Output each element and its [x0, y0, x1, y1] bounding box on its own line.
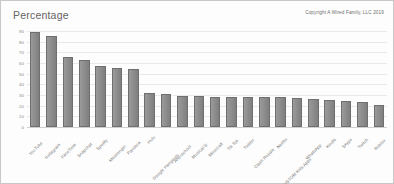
plot-area — [27, 31, 387, 127]
page-title: Percentage — [13, 9, 69, 21]
bar-slot — [30, 31, 40, 127]
bar[interactable] — [79, 60, 89, 127]
x-axis-labels: YouTubeInstagramFaceTimeSnapchatSpotifyM… — [27, 128, 387, 184]
x-axis-tick-label: Clash Royale — [253, 147, 275, 169]
x-axis-tick-label: Snapchat — [76, 141, 93, 158]
bar[interactable] — [30, 32, 40, 127]
bar[interactable] — [243, 97, 253, 127]
bar-slot — [243, 31, 253, 127]
y-axis-tick-label: 60 — [19, 61, 24, 66]
bar[interactable] — [161, 94, 171, 127]
y-axis-tick-label: 0 — [22, 125, 24, 130]
bar-slot — [357, 31, 367, 127]
x-axis-tick-label: Messenger — [108, 144, 127, 163]
bar-slot — [128, 31, 138, 127]
bar-slot — [374, 31, 384, 127]
x-axis-tick-label: Musical.ly — [191, 142, 209, 160]
copyright-notice: Copyright A Wired Family, LLC 2019 — [305, 10, 384, 15]
x-axis-tick-label: Minecraft — [207, 141, 224, 158]
bar-slot — [112, 31, 122, 127]
bar-slot — [177, 31, 187, 127]
x-axis-tick-label: YouTube — [28, 140, 44, 156]
x-axis-tick-label: Roblox — [373, 138, 386, 151]
bar[interactable] — [46, 36, 56, 127]
bar[interactable] — [95, 66, 105, 127]
bar-slot — [259, 31, 269, 127]
x-axis-tick-label: Twitch — [357, 137, 370, 150]
bar-slot — [79, 31, 89, 127]
bar[interactable] — [308, 99, 318, 127]
y-axis-tick-label: 90 — [19, 29, 24, 34]
bar-slot — [275, 31, 285, 127]
bar[interactable] — [292, 98, 302, 127]
chart-frame: Percentage Copyright A Wired Family, LLC… — [0, 0, 394, 184]
y-axis-tick-label: 50 — [19, 71, 24, 76]
bar[interactable] — [128, 69, 138, 127]
y-axis-tick-label: 80 — [19, 39, 24, 44]
y-axis-tick-label: 30 — [19, 93, 24, 98]
bar-slot — [144, 31, 154, 127]
bar-series — [27, 31, 387, 127]
x-axis-tick-label: Skype — [341, 137, 353, 149]
x-axis-tick-label: Instagram — [43, 142, 61, 160]
bar-slot — [95, 31, 105, 127]
y-axis-ticks: 0102030405060708090 — [1, 31, 27, 127]
bar[interactable] — [324, 100, 334, 127]
bar-slot — [46, 31, 56, 127]
x-axis-tick-label: Pandora — [126, 140, 142, 156]
y-axis-tick-label: 10 — [19, 114, 24, 119]
bar[interactable] — [341, 101, 351, 127]
x-axis-tick-label: Hulu — [146, 135, 156, 145]
bar-slot — [292, 31, 302, 127]
bar[interactable] — [259, 97, 269, 127]
bar[interactable] — [226, 97, 236, 127]
bar-slot — [194, 31, 204, 127]
bar[interactable] — [177, 96, 187, 127]
bar[interactable] — [374, 105, 384, 127]
x-axis-tick-label: Spotify — [95, 138, 108, 151]
bar-slot — [226, 31, 236, 127]
bar-slot — [63, 31, 73, 127]
x-axis-tick-label: Kindle — [325, 137, 337, 149]
bar-slot — [161, 31, 171, 127]
bar-slot — [210, 31, 220, 127]
x-axis-tick-label: Tik Tok — [226, 138, 239, 151]
bar-slot — [308, 31, 318, 127]
y-axis-tick-label: 70 — [19, 50, 24, 55]
bar[interactable] — [210, 97, 220, 127]
bar[interactable] — [194, 96, 204, 127]
y-axis-tick-label: 40 — [19, 82, 24, 87]
bar[interactable] — [63, 57, 73, 127]
bar-slot — [324, 31, 334, 127]
bar-slot — [341, 31, 351, 127]
x-axis-tick-label: Netflix — [275, 137, 287, 149]
bar[interactable] — [357, 102, 367, 127]
x-axis-tick-label: WhatsApp — [305, 143, 323, 161]
bar[interactable] — [275, 97, 285, 127]
x-axis-tick-label: Twitter — [242, 137, 255, 150]
bar[interactable] — [112, 68, 122, 127]
y-axis-tick-label: 20 — [19, 103, 24, 108]
bar[interactable] — [144, 93, 154, 127]
x-axis-tick-label: FaceTime — [60, 142, 78, 160]
